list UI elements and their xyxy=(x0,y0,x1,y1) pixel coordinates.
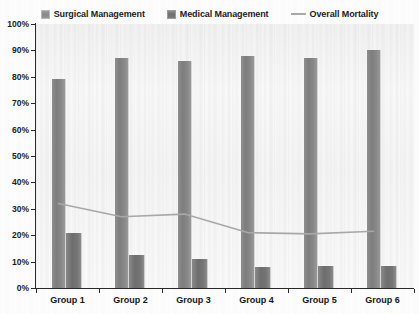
chart-figure: Surgical Management Medical Management O… xyxy=(0,0,419,314)
y-axis-tick-label: 60% xyxy=(0,125,29,135)
y-axis-tick-label: 30% xyxy=(0,204,29,214)
x-axis-tick xyxy=(99,289,100,293)
x-axis-tick-label: Group 1 xyxy=(37,295,99,305)
x-axis-tick-label: Group 6 xyxy=(352,295,414,305)
x-axis-tick xyxy=(162,289,163,293)
y-axis-tick-label: 20% xyxy=(0,230,29,240)
x-axis-tick-label: Group 3 xyxy=(163,295,225,305)
x-axis-tick-label: Group 4 xyxy=(226,295,288,305)
y-axis-tick-label: 90% xyxy=(0,45,29,55)
plot-wrapper: 0%10%20%30%40%50%60%70%80%90%100% Group … xyxy=(0,0,419,314)
y-axis-tick-label: 50% xyxy=(0,151,29,161)
x-axis-tick xyxy=(36,289,37,293)
overall-mortality-line xyxy=(36,24,414,288)
x-axis-tick xyxy=(351,289,352,293)
x-axis-tick xyxy=(225,289,226,293)
y-axis-tick-label: 10% xyxy=(0,257,29,267)
y-axis-tick-label: 100% xyxy=(0,19,29,29)
y-axis-tick-label: 0% xyxy=(0,283,29,293)
y-axis-tick-label: 40% xyxy=(0,177,29,187)
x-axis-tick-label: Group 2 xyxy=(100,295,162,305)
y-axis-tick-label: 80% xyxy=(0,72,29,82)
x-axis-tick xyxy=(414,289,415,293)
y-axis-tick-label: 70% xyxy=(0,98,29,108)
x-axis-tick-label: Group 5 xyxy=(289,295,351,305)
plot-area xyxy=(36,24,414,288)
x-axis-tick xyxy=(288,289,289,293)
